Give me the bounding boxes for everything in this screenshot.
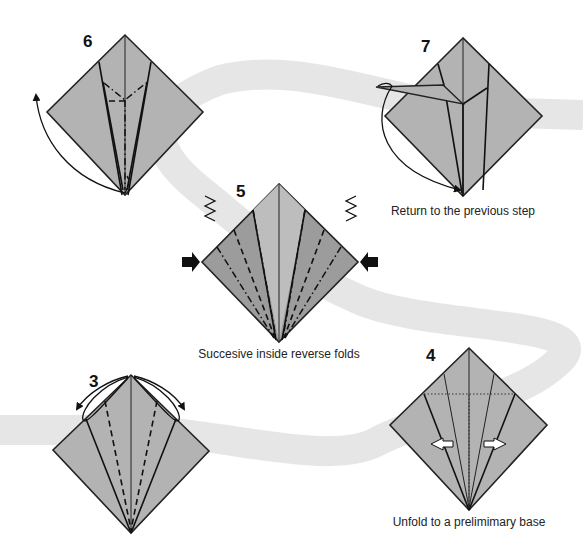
step-4-caption: Unfold to a prelimimary base bbox=[393, 515, 546, 529]
step-7-number: 7 bbox=[421, 37, 430, 56]
reverse-fold-symbol-right-icon bbox=[346, 196, 356, 221]
step-5: 5 Succesive inside reverse folds bbox=[182, 182, 378, 361]
step-5-number: 5 bbox=[236, 182, 245, 201]
push-arrow-left-icon bbox=[182, 252, 200, 272]
step-3: 3 bbox=[53, 372, 209, 533]
step-7-caption: Return to the previous step bbox=[391, 204, 535, 218]
step-6-number: 6 bbox=[83, 32, 92, 51]
step-4-number: 4 bbox=[426, 346, 436, 365]
step-7: 7 Return to the previous step bbox=[376, 37, 542, 218]
step-3-number: 3 bbox=[89, 372, 98, 391]
step-5-caption: Succesive inside reverse folds bbox=[198, 347, 359, 361]
origami-diagram: 6 7 Return to the previous step 5 Succes… bbox=[0, 0, 583, 557]
push-arrow-right-icon bbox=[360, 252, 378, 272]
